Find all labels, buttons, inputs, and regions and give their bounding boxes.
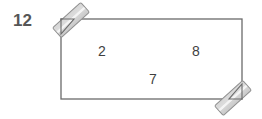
- diagram-canvas: 12 2 8 7: [0, 0, 262, 119]
- hatch-bar-top-left-icon: [53, 2, 90, 37]
- interior-label-bottom: 7: [149, 72, 157, 86]
- interior-label-top-right: 8: [192, 44, 200, 58]
- rectangle-outline: [61, 19, 242, 99]
- hatch-bar-bottom-right-icon: [215, 80, 252, 115]
- geometry-figure: [0, 0, 262, 119]
- interior-label-top-left: 2: [98, 44, 106, 58]
- exterior-label-left: 12: [13, 12, 32, 29]
